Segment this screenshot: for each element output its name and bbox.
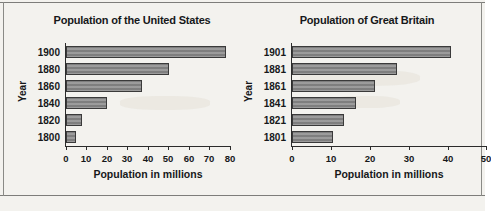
bar [66, 114, 82, 126]
chart-title: Population of the United States [4, 14, 242, 26]
bar [66, 80, 142, 92]
chart-united-states: Population of the United States Year Pop… [4, 0, 242, 190]
x-tick [127, 146, 128, 150]
y-category-label: 1800 [26, 132, 60, 143]
y-category-label: 1840 [26, 98, 60, 109]
x-tick-label: 60 [184, 153, 195, 164]
x-tick [292, 146, 293, 150]
bar [292, 63, 397, 75]
x-tick [189, 146, 190, 150]
x-tick-label: 80 [225, 153, 236, 164]
bar [66, 63, 169, 75]
x-tick-label: 10 [81, 153, 92, 164]
x-axis-line [291, 146, 487, 147]
x-tick [66, 146, 67, 150]
bar [66, 97, 107, 109]
x-tick-label: 20 [365, 153, 376, 164]
x-tick-label: 40 [443, 153, 454, 164]
bar [292, 46, 451, 58]
chart-great-britain: Population of Great Britain Year Populat… [244, 0, 484, 190]
y-category-label: 1900 [26, 47, 60, 58]
x-tick [230, 146, 231, 150]
bar [292, 97, 356, 109]
x-tick-label: 0 [63, 153, 68, 164]
x-tick [168, 146, 169, 150]
x-tick [486, 146, 487, 150]
y-category-label: 1820 [26, 115, 60, 126]
x-tick-label: 50 [481, 153, 491, 164]
x-tick [209, 146, 210, 150]
x-tick-label: 50 [163, 153, 174, 164]
x-tick-label: 30 [404, 153, 415, 164]
x-tick [370, 146, 371, 150]
chart-title: Population of Great Britain [244, 14, 484, 26]
x-axis-title: Population in millions [291, 168, 487, 180]
x-tick-label: 10 [326, 153, 337, 164]
y-category-label: 1861 [252, 81, 286, 92]
x-axis-title: Population in millions [65, 168, 231, 180]
x-tick [148, 146, 149, 150]
x-tick [107, 146, 108, 150]
bar [66, 46, 226, 58]
y-category-label: 1880 [26, 64, 60, 75]
x-tick-label: 20 [102, 153, 113, 164]
x-tick-label: 70 [204, 153, 215, 164]
y-category-label: 1860 [26, 81, 60, 92]
x-tick-label: 0 [289, 153, 294, 164]
x-tick [331, 146, 332, 150]
x-tick [409, 146, 410, 150]
y-category-label: 1801 [252, 132, 286, 143]
y-category-label: 1841 [252, 98, 286, 109]
bar [292, 131, 333, 143]
x-tick-label: 40 [143, 153, 154, 164]
plot-area: 0 10 20 30 40 50 60 70 80 [65, 44, 231, 146]
x-tick-label: 30 [122, 153, 133, 164]
y-category-label: 1821 [252, 115, 286, 126]
plot-area: 0 10 20 30 40 50 [291, 44, 487, 146]
bar [292, 114, 344, 126]
y-category-label: 1881 [252, 64, 286, 75]
x-tick [86, 146, 87, 150]
bar [292, 80, 375, 92]
x-tick [448, 146, 449, 150]
bar [66, 131, 76, 143]
y-category-label: 1901 [252, 47, 286, 58]
